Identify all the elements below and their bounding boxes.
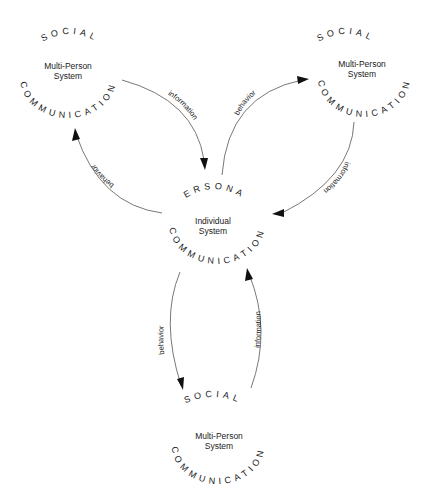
node-bottom-arc-label: COMMUNICATION [18, 80, 118, 120]
arrowhead-icon [245, 268, 253, 281]
node-social-top-left: SOCIAL Multi-Person System COMMUNICATION [18, 26, 118, 120]
edge-label: behavior [88, 162, 115, 190]
edge-label: information [253, 311, 263, 348]
edge-label: information [322, 161, 352, 196]
node-top-arc-label: SOCIAL [183, 389, 244, 405]
edge-behavior-center-to-bottom: behavior [156, 272, 184, 390]
edge-information-topright-to-center: information [272, 122, 354, 217]
node-bottom-arc-label: COMMUNICATION [170, 446, 267, 487]
node-center-line2: System [348, 69, 376, 79]
edge-label: information [167, 89, 200, 122]
arrowhead-icon [177, 377, 184, 390]
node-center-line1: Individual [195, 216, 231, 226]
edge-label: behavior [156, 325, 166, 355]
edge-information-topleft-to-center: information [122, 80, 208, 170]
node-center-line1: Multi-Person [195, 431, 243, 441]
edge-behavior-center-to-topleft: behavior [72, 128, 162, 213]
edge-behavior-center-to-topright: behavior [222, 76, 309, 175]
arrowhead-icon [297, 76, 309, 84]
arrowhead-icon [272, 209, 284, 217]
node-social-bottom: SOCIAL Multi-Person System COMMUNICATION [170, 389, 267, 486]
node-center-line2: System [205, 441, 233, 451]
communication-diagram: SOCIAL Multi-Person System COMMUNICATION… [0, 0, 430, 495]
node-top-arc-label: SOCIAL [39, 26, 100, 44]
node-bottom-arc-label: COMMUNICATION [316, 77, 412, 119]
node-center-line1: Multi-Person [338, 59, 386, 69]
arrowhead-icon [72, 128, 80, 141]
node-top-arc-label: SOCIAL [315, 26, 376, 44]
node-center-line2: System [54, 71, 82, 81]
node-personal-center: PERSONAL Individual System COMMUNICATION [0, 0, 267, 266]
node-center-line2: System [199, 226, 227, 236]
node-center-line1: Multi-Person [44, 61, 92, 71]
node-social-top-right: SOCIAL Multi-Person System COMMUNICATION [315, 26, 412, 119]
arrowhead-icon [200, 158, 208, 170]
edge-information-bottom-to-center: information [245, 268, 263, 388]
